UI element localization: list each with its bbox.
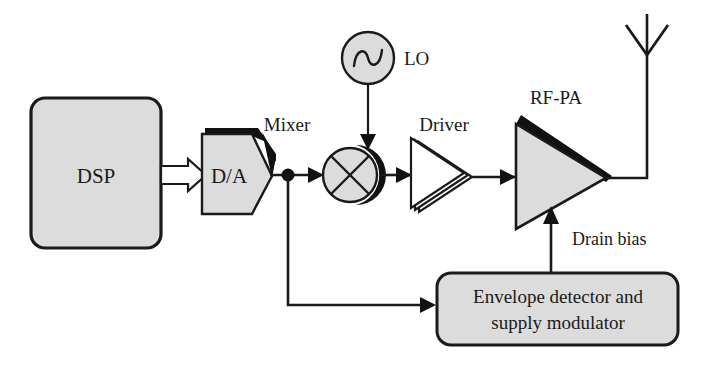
envelope-input-arrowhead [420,297,436,313]
da-label: D/A [211,164,248,188]
lo-to-mixer-wire [360,84,376,150]
driver-block: Driver [411,114,472,212]
antenna-icon-2 [647,25,668,55]
da-converter-block: D/A [202,128,276,214]
envelope-label-line1: Envelope detector and [473,286,643,307]
dsp-block: DSP [31,98,161,248]
envelope-detector-block: Envelope detector and supply modulator [437,273,678,345]
rfpa-label: RF-PA [530,87,582,108]
rfpa-to-antenna-wire [604,62,647,178]
drain-bias-wire: Drain bias [543,206,646,273]
mixer-label: Mixer [264,114,311,135]
antenna [626,14,668,62]
lo-label: LO [404,48,429,69]
lo-oscillator: LO [342,32,429,84]
driver-label: Driver [419,114,469,135]
driver-to-rfpa-wire [472,169,516,185]
driver-input-arrowhead [396,167,412,183]
envelope-block-shape [437,273,678,345]
diagram-svg: DSP D/A LO [0,0,706,369]
dsp-label: DSP [77,164,116,188]
antenna-feed-line [604,62,647,178]
rfpa-block: RF-PA [516,87,612,229]
block-diagram-canvas: DSP D/A LO [0,0,706,369]
drain-bias-label: Drain bias [572,229,646,249]
power-amplifier-triangle-icon [516,124,606,229]
dsp-to-da-bus-arrow [161,159,206,191]
rfpa-input-arrowhead [500,169,516,185]
envelope-label-line2: supply modulator [491,312,625,333]
mixer-input-arrowhead [308,167,324,183]
hollow-block-arrow-icon [161,159,206,191]
mixer-to-driver-wire [381,167,412,183]
antenna-icon [626,25,647,55]
da-to-mixer-wire [270,167,324,183]
